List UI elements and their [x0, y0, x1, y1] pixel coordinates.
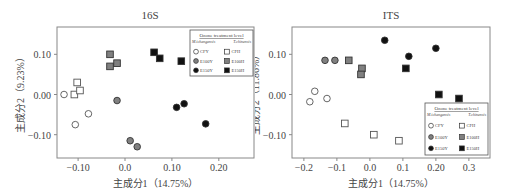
- data-point-cfh: [371, 131, 378, 138]
- data-point-e100y: [114, 97, 121, 104]
- data-point-e150y: [406, 53, 413, 60]
- data-point-cfy: [72, 121, 79, 128]
- data-point-e100y: [332, 57, 339, 64]
- x-axis-label: 主成分1（14.75%）: [348, 178, 434, 189]
- data-point-e150h: [156, 55, 163, 62]
- data-point-e100h: [114, 60, 121, 67]
- data-point-e150y: [433, 45, 440, 52]
- legend-entry: CFH: [232, 49, 242, 54]
- y-tick-label: −0.10: [263, 130, 286, 141]
- legend-entry: E150Y: [200, 68, 213, 73]
- legend-group-right: T.chinensis: [233, 39, 251, 44]
- x-tick-label: 0.0: [119, 162, 132, 173]
- x-tick-label: 0.10: [163, 162, 181, 173]
- data-point-e150y: [181, 100, 188, 107]
- data-point-e150y: [173, 104, 180, 111]
- x-tick-label: 0.0: [364, 162, 377, 173]
- legend-group-right: T.chinensis: [468, 112, 486, 117]
- y-axis-label: 主成分2（9.23%）: [15, 52, 26, 133]
- legend-title: Ozone treatment level: [199, 33, 244, 38]
- x-tick-label: 0.20: [210, 162, 228, 173]
- legend-entry: E100Y: [435, 135, 448, 140]
- y-tick-label: −0.10: [28, 130, 51, 141]
- legend-group-left: M.ichangensis: [426, 112, 451, 117]
- x-tick-label: 0.20: [427, 162, 445, 173]
- data-point-e100h: [358, 71, 365, 78]
- legend-entry: E100Y: [200, 59, 213, 64]
- x-tick-label: −0.10: [67, 162, 90, 173]
- data-point-e150h: [436, 91, 443, 98]
- data-point-cfh: [396, 137, 403, 144]
- data-point-e150h: [456, 95, 463, 102]
- y-tick-label: 0.00: [34, 90, 52, 101]
- x-axis-label: 主成分1（14.75%）: [113, 178, 199, 189]
- data-point-cfy: [61, 91, 68, 98]
- scatter-plot-its: ITS−0.2−0.10.00.10.200.30.100.00−0.10主成分…: [255, 0, 510, 195]
- legend-entry: E150H: [467, 146, 480, 151]
- legend-title: Ozone treatment level: [434, 106, 479, 111]
- data-point-cfy: [307, 98, 314, 105]
- data-point-e100h: [107, 51, 114, 58]
- x-tick-label: 0.1: [397, 162, 410, 173]
- data-point-e100y: [322, 57, 329, 64]
- legend-entry: E100H: [467, 135, 480, 140]
- x-tick-label: −0.1: [328, 162, 346, 173]
- legend-entry: E100H: [232, 59, 245, 64]
- data-point-cfy: [85, 110, 92, 117]
- data-point-e100y: [134, 143, 141, 150]
- legend-entry: CFH: [467, 123, 477, 128]
- data-point-e150y: [202, 121, 209, 128]
- data-point-cfh: [342, 120, 349, 127]
- legend-group-left: M.ichangensis: [191, 39, 216, 44]
- legend-entry: E150Y: [435, 146, 448, 151]
- chart-16s: 16S−0.100.00.100.200.100.00−0.10主成分1（14.…: [0, 0, 255, 195]
- data-point-cfh: [74, 79, 81, 86]
- chart-title: ITS: [383, 9, 400, 21]
- chart-its: ITS−0.2−0.10.00.10.200.30.100.00−0.10主成分…: [255, 0, 510, 195]
- data-point-e100y: [127, 137, 134, 144]
- legend: Ozone treatment levelM.ichangensisT.chin…: [190, 30, 253, 76]
- data-point-e150y: [381, 37, 388, 44]
- data-point-e100h: [345, 57, 352, 64]
- x-tick-label: 0.3: [463, 162, 476, 173]
- legend-entry: CFY: [435, 123, 445, 128]
- x-tick-label: −0.2: [295, 162, 313, 173]
- y-tick-label: 0.10: [269, 49, 287, 60]
- scatter-plot-16s: 16S−0.100.00.100.200.100.00−0.10主成分1（14.…: [0, 0, 255, 195]
- data-point-cfy: [311, 88, 318, 95]
- y-axis-label: 主成分2（11.86%）: [255, 50, 261, 135]
- data-point-cfy: [324, 95, 331, 102]
- y-tick-label: 0.10: [34, 49, 52, 60]
- data-point-e150h: [178, 58, 185, 65]
- legend-entry: E150H: [232, 68, 245, 73]
- chart-title: 16S: [141, 9, 158, 21]
- legend-entry: CFY: [200, 49, 210, 54]
- data-point-e100h: [107, 63, 114, 70]
- data-point-e150h: [403, 65, 410, 72]
- legend: Ozone treatment levelM.ichangensisT.chin…: [425, 103, 488, 155]
- data-point-cfh: [77, 87, 84, 94]
- y-tick-label: 0.00: [269, 90, 287, 101]
